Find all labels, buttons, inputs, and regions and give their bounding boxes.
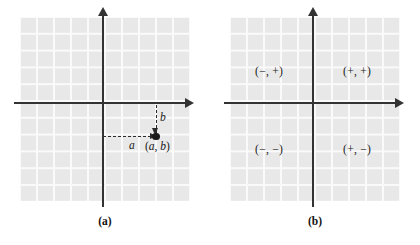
- label-a: a: [129, 140, 135, 152]
- x-axis-arrow-icon-a: [185, 98, 194, 108]
- figure-coordinate-planes: a b (a, b) (a) (−, +) (+, +) (−, −) (+, …: [0, 0, 420, 245]
- y-axis-b: [312, 15, 315, 207]
- y-axis-a: [102, 15, 105, 207]
- grid-background-b: [230, 17, 400, 201]
- quadrant-2-label: (−, +): [255, 66, 283, 78]
- x-axis-b: [224, 102, 396, 105]
- y-axis-arrow-icon-b: [308, 7, 318, 16]
- quadrant-1-label: (+, +): [343, 66, 371, 78]
- x-axis-a: [14, 102, 186, 105]
- quadrant-4-label: (+, −): [343, 144, 371, 156]
- caption-panel-b: (b): [210, 216, 420, 228]
- quadrant-3-label: (−, −): [255, 144, 283, 156]
- y-axis-arrow-icon-a: [98, 7, 108, 16]
- caption-panel-a: (a): [0, 216, 210, 228]
- label-point-coordinates: (a, b): [145, 141, 170, 153]
- label-b: b: [160, 112, 166, 124]
- plotted-point-marker: [152, 133, 160, 141]
- panel-b: (−, +) (+, +) (−, −) (+, −) (b): [210, 0, 420, 245]
- grid-background-a: [20, 17, 190, 201]
- dashed-leader-horizontal: [103, 136, 156, 137]
- x-axis-arrow-icon-b: [395, 98, 404, 108]
- panel-a: a b (a, b) (a): [0, 0, 210, 245]
- point-close-paren: ): [166, 140, 170, 152]
